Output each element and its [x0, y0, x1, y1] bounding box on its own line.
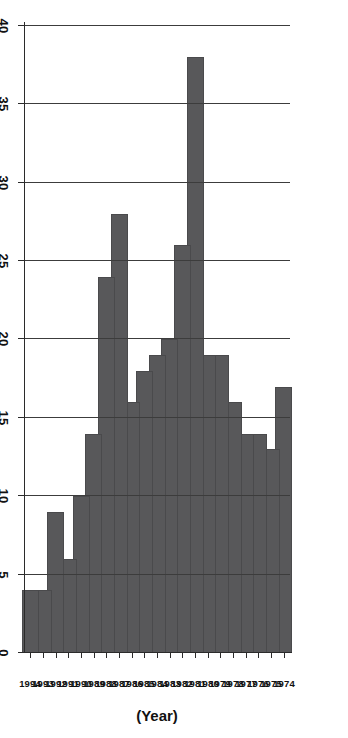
- bar-series: [24, 26, 290, 653]
- value-tick-label: 10: [0, 489, 11, 504]
- value-tick-label: 20: [0, 332, 11, 347]
- value-tick: [18, 495, 24, 496]
- value-tick-label: 35: [0, 97, 11, 112]
- bar-chart: 0510152025303540 19741975197619771978197…: [0, 0, 348, 738]
- category-tick: [195, 653, 196, 658]
- category-tick: [81, 653, 82, 658]
- category-tick: [157, 653, 158, 658]
- category-tick-label: 1994: [20, 678, 42, 689]
- figure-canvas: 0510152025303540 19741975197619771978197…: [0, 0, 348, 738]
- value-tick: [18, 260, 24, 261]
- category-tick: [144, 653, 145, 658]
- category-tick: [43, 653, 44, 658]
- value-tick-label: 40: [0, 19, 11, 34]
- category-tick: [132, 653, 133, 658]
- category-tick: [233, 653, 234, 658]
- category-tick: [182, 653, 183, 658]
- category-tick: [284, 653, 285, 658]
- gridline: [24, 260, 290, 261]
- value-tick: [18, 652, 24, 653]
- value-tick: [18, 417, 24, 418]
- category-tick: [271, 653, 272, 658]
- gridline: [24, 103, 290, 104]
- value-axis-zero-line: [18, 652, 292, 653]
- plot-area: [24, 26, 290, 653]
- value-tick: [18, 103, 24, 104]
- value-tick: [18, 182, 24, 183]
- gridline: [24, 25, 290, 26]
- category-tick: [208, 653, 209, 658]
- category-axis-title: (Year): [136, 707, 178, 724]
- value-tick-label: 0: [0, 649, 11, 656]
- value-tick-label: 30: [0, 175, 11, 190]
- category-tick: [68, 653, 69, 658]
- category-tick: [30, 653, 31, 658]
- category-tick: [106, 653, 107, 658]
- gridline: [24, 182, 290, 183]
- gridline: [24, 574, 290, 575]
- category-tick: [170, 653, 171, 658]
- category-tick: [220, 653, 221, 658]
- rotated-chart-wrapper: 0510152025303540 19741975197619771978197…: [0, 0, 348, 738]
- value-tick: [18, 574, 24, 575]
- category-tick: [56, 653, 57, 658]
- gridline: [24, 495, 290, 496]
- gridline: [24, 417, 290, 418]
- gridline: [24, 339, 290, 340]
- category-tick: [94, 653, 95, 658]
- value-tick-label: 15: [0, 410, 11, 425]
- value-tick-label: 25: [0, 254, 11, 269]
- category-tick: [246, 653, 247, 658]
- category-axis-line: [24, 22, 25, 653]
- value-tick: [18, 339, 24, 340]
- value-tick: [18, 25, 24, 26]
- value-tick-label: 5: [0, 571, 11, 578]
- category-tick: [258, 653, 259, 658]
- category-tick: [119, 653, 120, 658]
